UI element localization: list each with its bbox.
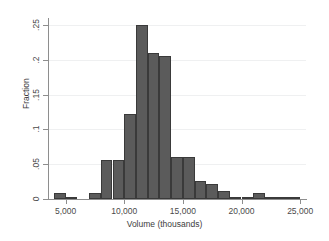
y-axis-tick bbox=[43, 95, 48, 96]
y-axis-tick-label: .05 bbox=[31, 158, 41, 170]
histogram-bar bbox=[171, 157, 183, 199]
x-axis-tick bbox=[242, 200, 243, 204]
y-axis-tick-label: 0 bbox=[31, 197, 41, 202]
histogram-bar bbox=[113, 160, 125, 199]
x-axis-tick bbox=[124, 200, 125, 204]
histogram-bar bbox=[183, 157, 195, 199]
x-axis-tick-label: 25,000 bbox=[287, 206, 313, 216]
histogram-bar bbox=[148, 53, 160, 199]
histogram-bar bbox=[206, 184, 218, 199]
x-axis-tick bbox=[66, 200, 67, 204]
y-axis-tick bbox=[43, 164, 48, 165]
x-axis-line bbox=[48, 199, 307, 200]
histogram-bar bbox=[218, 191, 230, 199]
y-axis-tick-label: .1 bbox=[31, 126, 41, 133]
histogram-bar bbox=[195, 181, 207, 199]
histogram-bar bbox=[159, 56, 171, 199]
x-axis-tick-label: 15,000 bbox=[170, 206, 196, 216]
y-axis-tick bbox=[43, 199, 48, 200]
x-axis-tick-label: 10,000 bbox=[111, 206, 137, 216]
y-axis-tick bbox=[43, 25, 48, 26]
y-axis-tick-label: .2 bbox=[31, 56, 41, 63]
plot-area bbox=[48, 18, 306, 199]
y-axis-title: Fraction bbox=[21, 78, 31, 109]
histogram-bar bbox=[124, 114, 136, 199]
x-axis-title: Volume (thousands) bbox=[0, 219, 329, 229]
y-axis-line bbox=[48, 18, 49, 200]
y-axis-tick-label: .25 bbox=[31, 19, 41, 31]
y-axis-tick-label: .15 bbox=[31, 89, 41, 101]
histogram-bar bbox=[101, 160, 113, 199]
x-axis-tick-label: 20,000 bbox=[229, 206, 255, 216]
x-axis-tick bbox=[183, 200, 184, 204]
y-axis-tick bbox=[43, 60, 48, 61]
histogram-bar bbox=[136, 25, 148, 199]
histogram-figure: 0.05.1.15.2.25 5,00010,00015,00020,00025… bbox=[0, 0, 329, 241]
x-axis-tick-label: 5,000 bbox=[55, 206, 76, 216]
y-axis-tick bbox=[43, 129, 48, 130]
histogram-bars bbox=[48, 18, 306, 199]
x-axis-tick bbox=[300, 200, 301, 204]
